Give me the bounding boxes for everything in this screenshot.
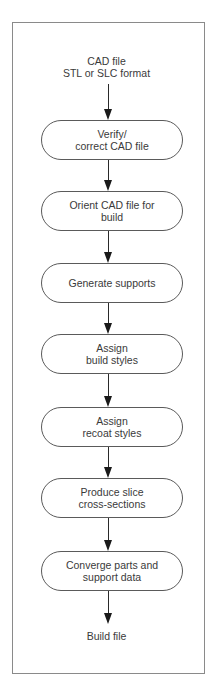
step-verify-cad-file: Verify/ correct CAD file [41,120,183,160]
arrow-down-icon [108,231,109,263]
step-label: Converge parts and support data [66,559,158,583]
step-orient-cad-file: Orient CAD file for build [41,191,183,231]
step-label: Orient CAD file for build [69,199,154,223]
start-label-cad-file: CAD file [0,55,213,67]
arrow-down-icon [108,160,109,191]
arrow-down-icon [108,518,109,551]
step-assign-build-styles: Assign build styles [41,334,183,374]
arrow-down-icon [108,303,109,334]
arrow-down-icon [108,591,109,624]
step-label: Generate supports [69,277,156,289]
step-label: Assign build styles [86,342,138,366]
step-generate-supports: Generate supports [41,263,183,303]
end-label-build-file: Build file [0,630,213,642]
arrow-down-icon [108,84,109,120]
start-label-format: STL or SLC format [0,67,213,79]
step-label: Verify/ correct CAD file [75,128,149,152]
step-assign-recoat-styles: Assign recoat styles [41,407,183,447]
arrow-down-icon [108,374,109,407]
step-label: Assign recoat styles [83,415,142,439]
step-label: Produce slice cross-sections [78,486,145,510]
arrow-down-icon [108,447,109,478]
step-produce-slice-cross-sections: Produce slice cross-sections [41,478,183,518]
step-converge-parts-support-data: Converge parts and support data [41,551,183,591]
